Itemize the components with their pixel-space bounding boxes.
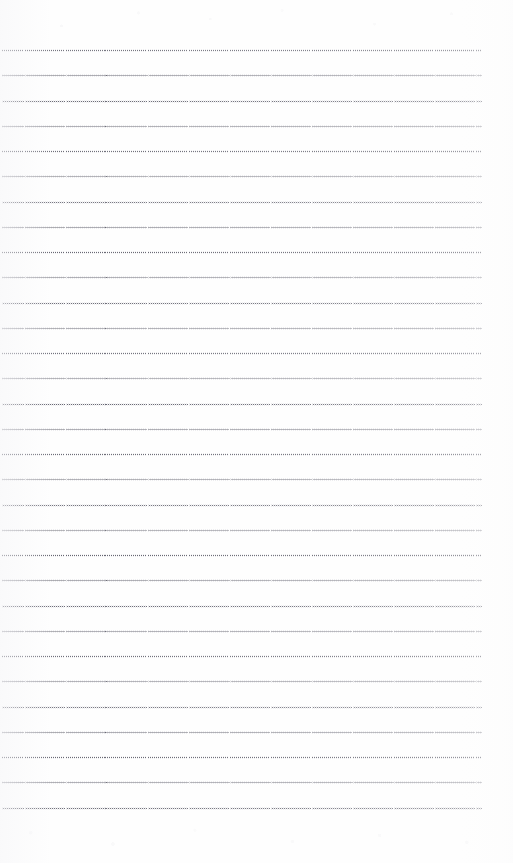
rule-line	[2, 707, 482, 708]
rule-line	[2, 277, 482, 278]
rule-line	[2, 252, 482, 253]
rule-line	[2, 328, 482, 329]
rule-line	[2, 530, 482, 531]
rule-line	[2, 429, 482, 430]
rule-line	[2, 227, 482, 228]
rule-line	[2, 151, 482, 152]
rule-line	[2, 681, 482, 682]
rule-line	[2, 303, 482, 304]
rule-line	[2, 757, 482, 758]
rule-line	[2, 505, 482, 506]
rule-line	[2, 101, 482, 102]
rule-line	[2, 404, 482, 405]
ruled-lines-layer	[0, 0, 513, 863]
rule-line	[2, 75, 482, 76]
rule-line	[2, 50, 482, 51]
rule-line	[2, 580, 482, 581]
rule-line	[2, 782, 482, 783]
rule-line	[2, 126, 482, 127]
rule-line	[2, 454, 482, 455]
rule-line	[2, 606, 482, 607]
rule-line	[2, 555, 482, 556]
rule-line	[2, 378, 482, 379]
bottom-margin	[0, 808, 513, 863]
rule-line	[2, 656, 482, 657]
rule-line	[2, 202, 482, 203]
rule-line	[2, 631, 482, 632]
rule-line	[2, 176, 482, 177]
rule-line	[2, 353, 482, 354]
rule-line	[2, 732, 482, 733]
rule-line	[2, 479, 482, 480]
scanned-page	[0, 0, 513, 863]
